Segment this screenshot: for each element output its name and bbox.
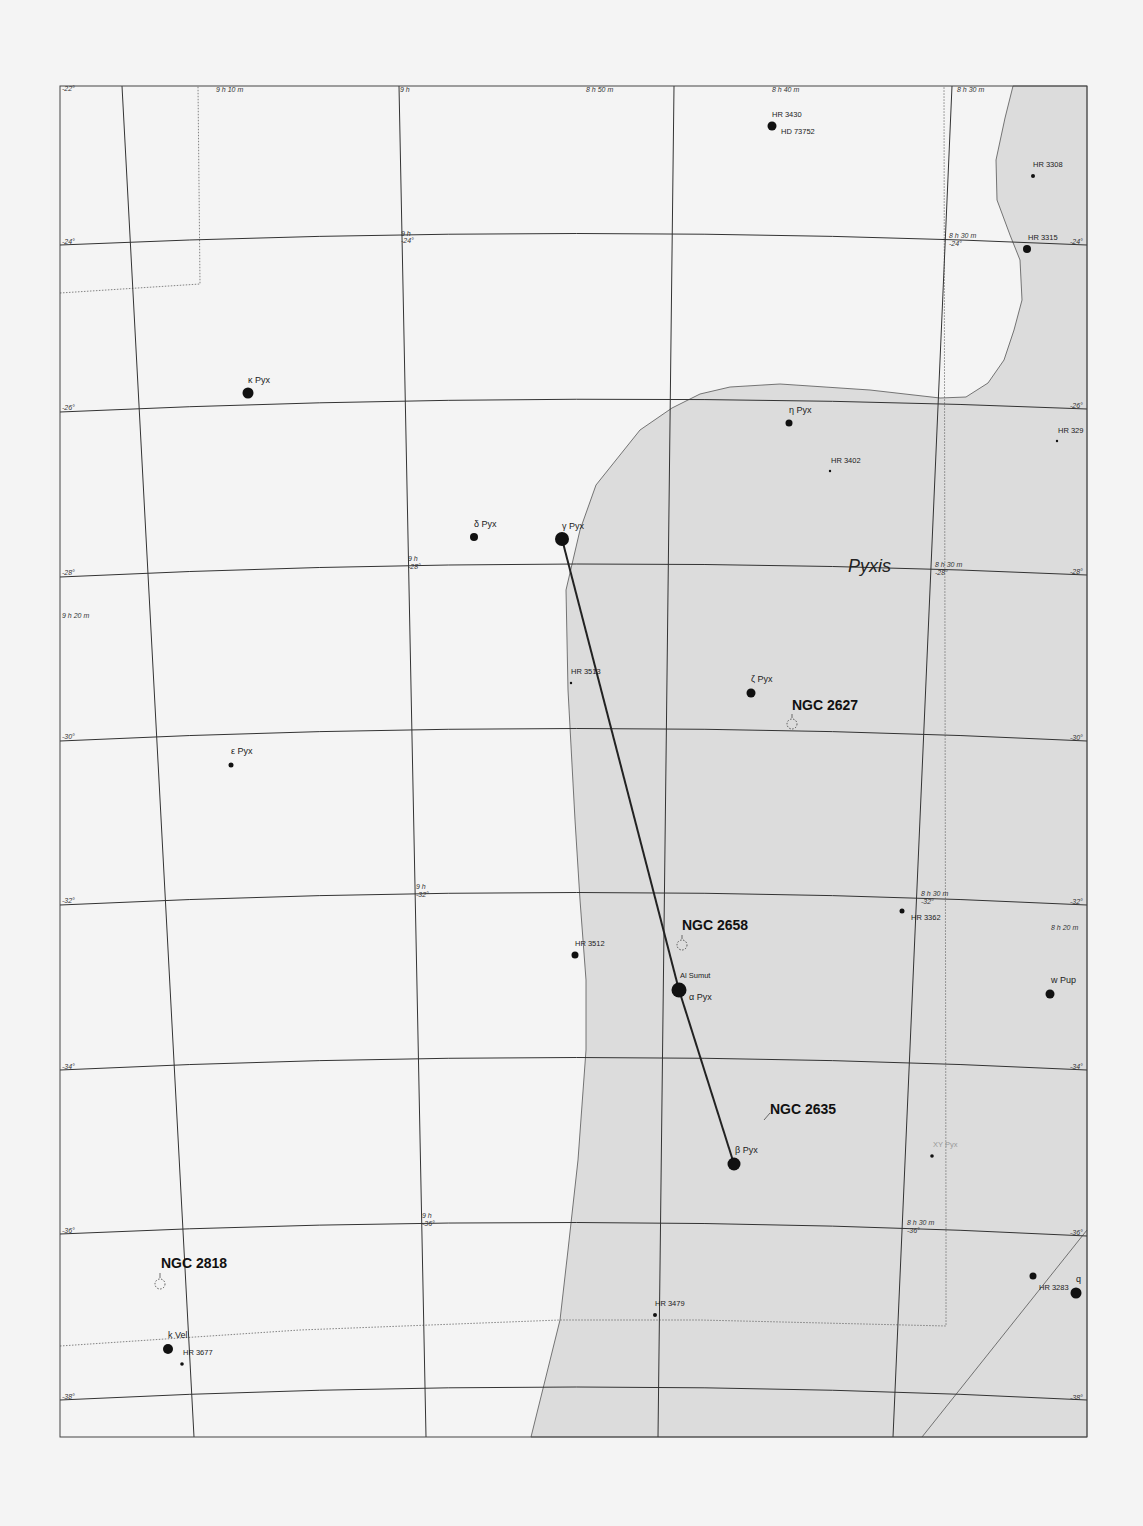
svg-text:-30°: -30° [62, 733, 75, 740]
ra-label-left: 9 h 20 m [62, 612, 89, 619]
svg-text:-24°: -24° [1070, 238, 1083, 245]
svg-text:-30°: -30° [1070, 734, 1083, 741]
svg-text:-34°: -34° [1070, 1063, 1083, 1070]
svg-text:9 h: 9 h [401, 230, 411, 237]
svg-text:-36°: -36° [907, 1227, 920, 1234]
svg-text:w Pup: w Pup [1050, 975, 1076, 985]
svg-text:NGC 2627: NGC 2627 [792, 697, 858, 713]
svg-text:k Vel: k Vel [168, 1330, 188, 1340]
svg-text:HR 3308: HR 3308 [1033, 160, 1063, 169]
svg-text:-26°: -26° [62, 404, 75, 411]
svg-text:q: q [1076, 1274, 1081, 1284]
svg-text:8 h 30 m: 8 h 30 m [907, 1219, 934, 1226]
svg-text:HR 3402: HR 3402 [831, 456, 861, 465]
svg-text:8 h 30 m: 8 h 30 m [935, 561, 962, 568]
svg-text:ζ Pyx: ζ Pyx [751, 674, 773, 684]
svg-text:β Pyx: β Pyx [735, 1145, 758, 1155]
svg-text:8 h 50 m: 8 h 50 m [586, 86, 613, 93]
svg-text:-38°: -38° [62, 1393, 75, 1400]
svg-text:-24°: -24° [401, 237, 414, 244]
svg-text:HR 3362: HR 3362 [911, 913, 941, 922]
svg-text:NGC 2635: NGC 2635 [770, 1101, 836, 1117]
svg-text:δ Pyx: δ Pyx [474, 519, 497, 529]
svg-text:-36°: -36° [62, 1227, 75, 1234]
svg-text:-28°: -28° [408, 563, 421, 570]
svg-text:-28°: -28° [1070, 568, 1083, 575]
star-chart: 9 h 10 m 9 h 8 h 50 m 8 h 40 m 8 h 30 m … [0, 0, 1143, 1526]
svg-text:8 h 30 m: 8 h 30 m [949, 232, 976, 239]
svg-text:9 h: 9 h [416, 883, 426, 890]
svg-text:α Pyx: α Pyx [689, 992, 712, 1002]
svg-text:NGC 2658: NGC 2658 [682, 917, 748, 933]
svg-text:9 h: 9 h [408, 555, 418, 562]
svg-text:-26°: -26° [1070, 402, 1083, 409]
svg-text:-24°: -24° [62, 238, 75, 245]
svg-text:HR 3315: HR 3315 [1028, 233, 1058, 242]
svg-text:-22°: -22° [62, 85, 75, 92]
ra-label-right: 8 h 20 m [1051, 924, 1078, 931]
svg-text:-38°: -38° [1070, 1394, 1083, 1401]
svg-text:-36°: -36° [422, 1220, 435, 1227]
svg-text:-32°: -32° [62, 897, 75, 904]
svg-text:HR 3430: HR 3430 [772, 110, 802, 119]
svg-text:ε Pyx: ε Pyx [231, 746, 253, 756]
svg-text:8 h 30 m: 8 h 30 m [957, 86, 984, 93]
svg-text:γ Pyx: γ Pyx [562, 521, 585, 531]
svg-text:-32°: -32° [1070, 898, 1083, 905]
svg-text:8 h 40 m: 8 h 40 m [772, 86, 799, 93]
svg-text:-32°: -32° [921, 898, 934, 905]
svg-text:8 h 30 m: 8 h 30 m [921, 890, 948, 897]
svg-text:9 h 10 m: 9 h 10 m [216, 86, 243, 93]
svg-text:Al Sumut: Al Sumut [680, 971, 711, 980]
svg-text:HR 3513: HR 3513 [571, 667, 601, 676]
svg-text:-32°: -32° [416, 891, 429, 898]
svg-text:-36°: -36° [1070, 1229, 1083, 1236]
svg-text:9 h: 9 h [422, 1212, 432, 1219]
svg-text:-28°: -28° [935, 569, 948, 576]
svg-text:HR 3479: HR 3479 [655, 1299, 685, 1308]
svg-text:XY Pyx: XY Pyx [933, 1140, 958, 1149]
svg-text:HD 73752: HD 73752 [781, 127, 815, 136]
svg-text:κ Pyx: κ Pyx [248, 375, 271, 385]
svg-text:-28°: -28° [62, 569, 75, 576]
svg-text:-24°: -24° [949, 240, 962, 247]
svg-text:HR 329: HR 329 [1058, 426, 1083, 435]
svg-text:NGC 2818: NGC 2818 [161, 1255, 227, 1271]
svg-text:η Pyx: η Pyx [789, 405, 812, 415]
svg-text:HR 3677: HR 3677 [183, 1348, 213, 1357]
svg-text:HR 3512: HR 3512 [575, 939, 605, 948]
svg-text:9 h: 9 h [400, 86, 410, 93]
svg-text:-34°: -34° [62, 1063, 75, 1070]
svg-text:HR 3283: HR 3283 [1039, 1283, 1069, 1292]
constellation-name: Pyxis [848, 556, 891, 576]
